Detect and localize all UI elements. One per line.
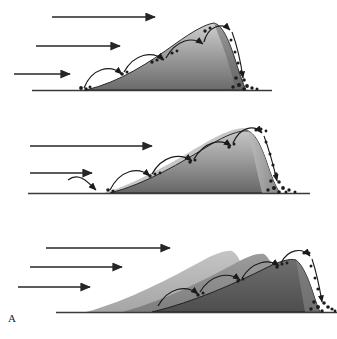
saltation-hop-arc-launch: [68, 177, 96, 190]
wind-arrow-group: [18, 248, 170, 287]
wind-arrow-group: [14, 17, 155, 74]
figure-panel-label: A: [8, 312, 16, 324]
figure-canvas: [0, 0, 337, 339]
wind-arrow-group: [30, 146, 152, 173]
panel-migrating-dune: [28, 128, 310, 194]
dune-migration-figure: A: [0, 0, 337, 339]
panel-initial-dune: [14, 17, 272, 91]
panel-successive-dunes: [18, 248, 337, 313]
